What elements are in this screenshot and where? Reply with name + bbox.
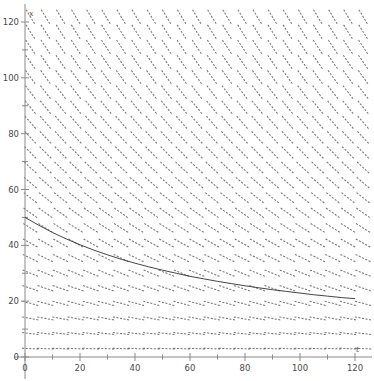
- slope-field-dash: [146, 86, 156, 99]
- slope-field-dash: [144, 254, 159, 261]
- slope-field-dash: [344, 10, 353, 25]
- slope-field-dash: [342, 147, 354, 159]
- slope-field-dash: [176, 131, 188, 143]
- slope-field-dash: [101, 55, 111, 69]
- slope-field-dash: [161, 101, 172, 114]
- slope-field-dash: [355, 301, 371, 305]
- slope-field-dash: [115, 162, 127, 174]
- slope-field-dash: [189, 254, 204, 261]
- slope-field-dash: [207, 70, 217, 84]
- slope-field-dash: [234, 333, 251, 335]
- slope-field-dash: [253, 25, 262, 39]
- slope-field-dash: [207, 40, 216, 54]
- slope-field-dash: [236, 193, 249, 203]
- slope-field-dash: [282, 101, 293, 114]
- slope-field-dash: [265, 223, 279, 232]
- slope-field-dash: [117, 10, 126, 25]
- slope-field-dash: [294, 333, 311, 335]
- slope-field-dash: [86, 25, 95, 39]
- slope-field-dash: [327, 131, 339, 143]
- slope-field-dash: [249, 333, 266, 335]
- slope-field-dash: [115, 177, 128, 188]
- slope-field-dash: [267, 131, 279, 143]
- slope-field-dash: [53, 286, 69, 291]
- slope-field-dash: [193, 10, 202, 25]
- ticks-group: [21, 22, 355, 361]
- slope-field-dash: [204, 301, 220, 305]
- slope-field-dash: [294, 317, 311, 320]
- slope-field-dash: [325, 270, 341, 276]
- slope-field-dash: [129, 239, 144, 247]
- slope-field-dash: [250, 254, 265, 261]
- slope-field-dash: [39, 208, 53, 218]
- slope-field-dash: [143, 333, 160, 335]
- slope-field-dash: [98, 270, 114, 276]
- y-tick-label: 100: [3, 73, 19, 83]
- slope-field-dash: [221, 162, 233, 174]
- slope-field-dash: [55, 162, 67, 174]
- slope-field-dash: [219, 286, 235, 291]
- slope-field-dash: [41, 10, 50, 25]
- slope-field-dash: [113, 333, 130, 335]
- slope-field-dash: [128, 348, 145, 349]
- slope-field-dash: [297, 147, 309, 159]
- slope-field-dash: [83, 254, 98, 261]
- slope-field-dash: [358, 55, 368, 69]
- slope-field-dash: [177, 10, 186, 25]
- slope-field-dash: [222, 70, 232, 84]
- slope-field-dash: [68, 286, 84, 291]
- slope-field-dash: [328, 101, 339, 114]
- slope-field-dash: [67, 333, 84, 335]
- slope-field-dash: [235, 223, 249, 232]
- slope-field-dash: [204, 317, 221, 320]
- y-axis-name: x: [29, 9, 34, 18]
- slope-field-dash: [69, 208, 83, 218]
- slope-field-dash: [161, 116, 172, 129]
- slope-field-dash: [102, 25, 111, 39]
- slope-field-dash: [298, 40, 307, 54]
- slope-field-dash: [159, 286, 175, 291]
- slope-field-dash: [340, 270, 356, 276]
- slope-field-dash: [356, 239, 371, 247]
- slope-field-dash: [236, 131, 248, 143]
- slope-field-dash: [144, 270, 160, 276]
- slope-field-dash: [99, 223, 113, 232]
- slope-field-dash: [280, 239, 295, 247]
- slope-field-dash: [191, 147, 203, 159]
- slope-field-dash: [68, 270, 84, 276]
- slope-field-dash: [86, 70, 96, 84]
- slope-field-dash: [113, 286, 129, 291]
- slope-field-dash: [192, 70, 202, 84]
- slope-field-dash: [69, 223, 83, 232]
- slope-field-dash: [131, 116, 142, 129]
- slope-field-dash: [253, 55, 263, 69]
- slope-field-dash: [176, 162, 188, 174]
- slope-field-dash: [295, 254, 310, 261]
- slope-field-dash: [326, 223, 340, 232]
- x-tick-label: 60: [185, 363, 196, 373]
- slope-field-dash: [355, 333, 372, 335]
- slope-field-dash: [146, 116, 157, 129]
- slope-field-dash: [53, 270, 69, 276]
- slope-field-dash: [70, 162, 82, 174]
- slope-field-dash: [55, 101, 66, 114]
- slope-field-dash: [128, 317, 145, 320]
- slope-field-dash: [85, 162, 97, 174]
- slope-field-dash: [69, 193, 82, 203]
- slope-field-dash: [310, 239, 325, 247]
- slope-field-dash: [314, 10, 323, 25]
- slope-field-dash: [343, 55, 353, 69]
- slope-field-dash: [192, 55, 202, 69]
- slope-field-dash: [358, 116, 369, 129]
- slope-field-dash: [356, 208, 370, 218]
- slope-field-dash: [56, 40, 65, 54]
- slope-field-dash: [298, 70, 308, 84]
- slope-field-dash: [131, 101, 142, 114]
- slope-field-dash: [116, 70, 126, 84]
- slope-field-dash: [207, 101, 218, 114]
- slope-field-dash: [295, 239, 310, 247]
- slope-field-dash: [220, 223, 234, 232]
- slope-field-dash: [207, 25, 216, 39]
- slope-field-dash: [83, 286, 99, 291]
- slope-field-dash: [236, 162, 248, 174]
